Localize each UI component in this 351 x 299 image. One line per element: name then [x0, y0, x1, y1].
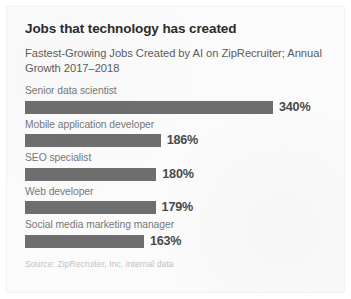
bar-row: 340%: [25, 101, 332, 114]
chart-screenshot: Jobs that technology has created Fastest…: [0, 0, 351, 299]
bar-value-label: 179%: [162, 201, 193, 214]
bar-chart: Senior data scientist340%Mobile applicat…: [25, 84, 332, 248]
bar-value-label: 180%: [162, 168, 193, 181]
bar-row: 179%: [25, 201, 332, 214]
bar-category-label: SEO specialist: [25, 151, 332, 165]
bar-group: Social media marketing manager163%: [25, 218, 332, 248]
chart-content: Jobs that technology has created Fastest…: [25, 21, 332, 284]
bar: [25, 134, 161, 147]
page-title: Jobs that technology has created: [25, 21, 332, 37]
bar-category-label: Senior data scientist: [25, 84, 332, 98]
bar-row: 186%: [25, 134, 332, 147]
bar-value-label: 163%: [150, 235, 181, 248]
chart-source: Source: ZipRecruiter, Inc. internal data: [25, 259, 332, 269]
bar: [25, 201, 156, 214]
chart-subtitle: Fastest-Growing Jobs Created by AI on Zi…: [25, 46, 332, 75]
bar-group: Mobile application developer186%: [25, 118, 332, 148]
bar-row: 163%: [25, 235, 332, 248]
bar-group: Web developer179%: [25, 185, 332, 215]
bar-group: Senior data scientist340%: [25, 84, 332, 114]
bar-category-label: Social media marketing manager: [25, 218, 332, 232]
chart-card: Jobs that technology has created Fastest…: [6, 6, 345, 293]
bar-row: 180%: [25, 168, 332, 181]
bar-group: SEO specialist180%: [25, 151, 332, 181]
bar: [25, 168, 156, 181]
bar-value-label: 186%: [167, 134, 198, 147]
bar-category-label: Web developer: [25, 185, 332, 199]
bar: [25, 101, 273, 114]
bar-value-label: 340%: [279, 101, 310, 114]
bar: [25, 235, 144, 248]
bar-category-label: Mobile application developer: [25, 118, 332, 132]
